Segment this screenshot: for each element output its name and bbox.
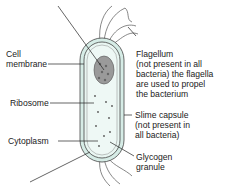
label-line: the bacterium xyxy=(136,89,213,99)
label-line: Glycogen xyxy=(136,152,172,162)
label-glycogen-granule: Glycogen granule xyxy=(136,152,172,172)
label-line: Flagellum xyxy=(136,49,213,59)
label-ribosome: Ribosome xyxy=(10,98,49,108)
label-slime-capsule: Slime capsule (not present in all bacter… xyxy=(135,110,190,140)
label-line: are used to propel xyxy=(136,79,213,89)
label-flagellum: Flagellum (not present in all bacteria) … xyxy=(136,49,213,99)
label-line: granule xyxy=(136,162,172,172)
label-cell-membrane: Cell membrane xyxy=(6,49,47,69)
label-line: Cell xyxy=(6,49,47,59)
label-line: bacteria) the flagella xyxy=(136,69,213,79)
label-line: membrane xyxy=(6,59,47,69)
label-line: (not present in xyxy=(135,120,190,130)
label-line: Slime capsule xyxy=(135,110,190,120)
label-cytoplasm: Cytoplasm xyxy=(8,136,49,146)
label-line: (not present in all xyxy=(136,59,213,69)
bacterium-diagram: Cell membrane Ribosome Cytoplasm Flagell… xyxy=(0,0,232,189)
label-line: all bacteria) xyxy=(135,130,190,140)
